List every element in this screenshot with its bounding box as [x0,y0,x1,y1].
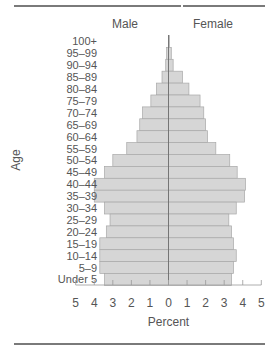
legend-male: Male [112,17,138,31]
bar-female [169,190,245,202]
x-tick-label: 1 [184,296,191,310]
category-label: 50–54 [66,154,97,166]
category-label: 55–59 [66,143,97,155]
x-tick-label: 2 [128,296,135,310]
bar-female [169,155,230,167]
bar-female [169,83,189,95]
bar-female [169,59,174,71]
x-tick-label: 1 [147,296,154,310]
category-label: 70–74 [66,107,97,119]
category-label: 5–9 [79,262,97,274]
x-tick-label: 0 [165,296,172,310]
category-label: 100+ [72,35,97,47]
population-pyramid-chart: Male Female Age Percent 100+95–9990–9485… [0,0,280,345]
x-tick-label: 4 [91,296,98,310]
bar-female [169,71,183,83]
bar-female [169,47,172,59]
y-axis-label: Age [9,149,23,171]
bar-male [94,178,168,190]
category-label: Under 5 [58,273,97,285]
bar-male [140,119,169,131]
bar-female [169,119,206,131]
x-axis-label: Percent [148,315,190,329]
category-label: 60–64 [66,131,97,143]
bar-female [169,95,201,107]
bar-male [110,214,168,226]
bar-female [169,143,216,155]
category-label: 90–94 [66,59,97,71]
bar-female [169,250,237,262]
bar-female [169,274,232,286]
bar-male [166,59,169,71]
bar-male [104,202,168,214]
category-label: 15–19 [66,238,97,250]
bar-male [162,71,168,83]
bar-male [127,143,169,155]
x-tick-label: 3 [109,296,116,310]
category-label: 65–69 [66,119,97,131]
bar-male [106,226,168,238]
x-tick-label: 3 [221,296,228,310]
bar-female [169,226,232,238]
bar-female [169,131,208,143]
category-label: 40–44 [66,178,97,190]
bar-male [100,238,169,250]
bar-male [100,262,169,274]
category-label: 95–99 [66,47,97,59]
bar-male [151,95,169,107]
category-label: 10–14 [66,250,97,262]
bar-male [104,166,168,178]
x-tick-label: 4 [239,296,246,310]
category-label: 35–39 [66,190,97,202]
x-tick-label: 5 [258,296,265,310]
bar-female [169,238,234,250]
bar-female [169,178,246,190]
bar-female [169,202,237,214]
bar-male [143,107,169,119]
x-tick-label: 5 [72,296,79,310]
bar-male [156,83,168,95]
category-label: 85–89 [66,71,97,83]
category-label: 45–49 [66,166,97,178]
category-label: 30–34 [66,202,97,214]
bar-male [94,190,168,202]
bar-male [104,274,168,286]
bar-male [100,250,169,262]
x-tick-label: 2 [202,296,209,310]
category-label: 25–29 [66,214,97,226]
bar-female [169,107,204,119]
bar-male [137,131,169,143]
bar-female [169,262,234,274]
bar-female [169,214,229,226]
bar-female [169,166,238,178]
legend-female: Female [193,17,233,31]
bar-male [113,155,169,167]
category-label: 75–79 [66,95,97,107]
category-label: 20–24 [66,226,97,238]
category-label: 80–84 [66,83,97,95]
